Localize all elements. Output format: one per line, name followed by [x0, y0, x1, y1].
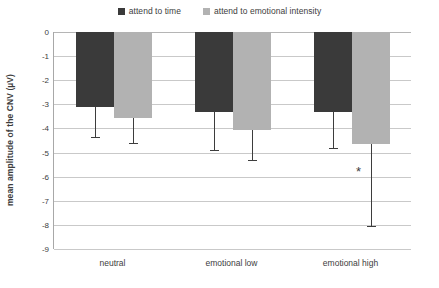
x-axis-label-emotional-high: emotional high — [323, 258, 378, 268]
bar-emotional-low-attend-to-time — [195, 32, 233, 112]
legend-swatch-icon-dark — [118, 8, 125, 15]
error-bar-line — [252, 130, 253, 160]
y-axis-title-text: mean amplitude of the CNV (µV) — [5, 74, 15, 206]
gridline-neg8: -8 — [54, 225, 411, 226]
legend-swatch-icon-light — [203, 8, 210, 15]
y-tick-label: -7 — [42, 196, 49, 205]
gridline-neg9: -9 — [54, 249, 411, 250]
error-bar-line — [214, 112, 215, 151]
x-axis-label-emotional-low: emotional low — [206, 258, 258, 268]
cnv-amplitude-bar-chart: attend to time attend to emotional inten… — [0, 0, 439, 288]
legend-label-attend-to-time: attend to time — [129, 6, 181, 16]
bar-neutral-attend-to-emotional-intensity — [114, 32, 152, 118]
error-bar-cap — [248, 160, 257, 161]
bar-emotional-low-attend-to-emotional-intensity — [233, 32, 271, 130]
error-bar-line — [95, 107, 96, 137]
y-tick-label: -3 — [42, 100, 49, 109]
plot-area: 0-1-2-3-4-5-6-7-8-9* — [53, 32, 410, 249]
y-tick-label: -2 — [42, 76, 49, 85]
significance-asterisk: * — [356, 164, 361, 177]
error-bar-cap — [129, 143, 138, 144]
y-tick-label: -4 — [42, 124, 49, 133]
x-axis-label-neutral: neutral — [100, 258, 126, 268]
y-tick-label: 0 — [45, 28, 49, 37]
y-tick-label: -5 — [42, 148, 49, 157]
bar-neutral-attend-to-time — [76, 32, 114, 107]
legend-entry-attend-to-emotional-intensity: attend to emotional intensity — [203, 6, 321, 16]
error-bar-cap — [91, 137, 100, 138]
error-bar-cap — [367, 226, 376, 227]
error-bar-line — [133, 118, 134, 143]
y-tick-label: -8 — [42, 220, 49, 229]
y-tick-label: -6 — [42, 172, 49, 181]
error-bar-cap — [329, 148, 338, 149]
y-tick-label: -9 — [42, 245, 49, 254]
error-bar-cap — [210, 150, 219, 151]
legend-entry-attend-to-time: attend to time — [118, 6, 181, 16]
y-axis-title: mean amplitude of the CNV (µV) — [2, 30, 18, 250]
bar-emotional-high-attend-to-emotional-intensity — [352, 32, 390, 144]
x-axis-category-labels: neutralemotional lowemotional high — [53, 258, 410, 274]
error-bar-line — [371, 144, 372, 226]
legend-label-attend-to-emotional-intensity: attend to emotional intensity — [214, 6, 321, 16]
y-tick-label: -1 — [42, 52, 49, 61]
chart-legend: attend to time attend to emotional inten… — [0, 3, 439, 19]
gridline-neg7: -7 — [54, 201, 411, 202]
bar-emotional-high-attend-to-time — [314, 32, 352, 112]
error-bar-line — [333, 112, 334, 148]
gridline-neg5: -5 — [54, 153, 411, 154]
